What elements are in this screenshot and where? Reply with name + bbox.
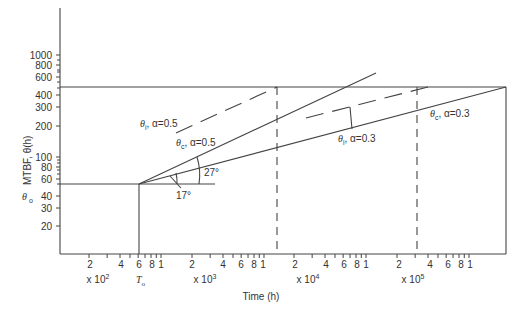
- x-tick-label: 6: [445, 259, 451, 270]
- x-tick-label: 6: [238, 259, 244, 270]
- angle-arc-27: [197, 157, 200, 184]
- x-tick-label: 4: [220, 259, 226, 270]
- x-tick-label: 1: [467, 259, 473, 270]
- annotation-label: θc, α=0.3: [430, 108, 470, 121]
- series-lines: [139, 73, 506, 188]
- annotation-label: θc, α=0.5: [176, 137, 216, 150]
- x-tick-label: 2: [189, 259, 195, 270]
- gap-marker-alpha03: [350, 107, 352, 129]
- angle-17-leader: [170, 176, 181, 188]
- x-multiplier-label: x 105: [402, 273, 425, 285]
- y-axis-title: MTBF, θ(h): [22, 136, 33, 185]
- theta-c-alpha03-line: [139, 87, 506, 184]
- x-multiplier-label: x 103: [194, 273, 217, 285]
- x-tick-label: 2: [292, 259, 298, 270]
- x-tick-label: 2: [87, 259, 93, 270]
- y-tick-label: 600: [35, 72, 52, 83]
- x-ticks: 24681246812468124681x 102x 103x 104x 105…: [87, 254, 474, 288]
- y-tick-label: 300: [35, 102, 52, 113]
- x-multiplier-label: x 102: [87, 273, 110, 285]
- x-tick-label: 8: [354, 259, 360, 270]
- x-tick-label: 1: [158, 259, 164, 270]
- y-tick-label: 20: [41, 221, 53, 232]
- x-tick-label: 1: [363, 259, 369, 270]
- annotation-label: θi, α=0.3: [338, 133, 376, 146]
- x-tick-label: 8: [458, 259, 464, 270]
- mtbf-growth-chart: 10008006004003002001008060403020θo 24681…: [0, 0, 525, 314]
- y-tick-label: 30: [41, 203, 53, 214]
- y-tick-label: 400: [35, 90, 52, 101]
- x-tick-label: 6: [136, 259, 142, 270]
- annotation-label: θi, α=0.5: [140, 118, 178, 131]
- labels: θi, α=0.5θc, α=0.5θi, α=0.3θc, α=0.327°1…: [140, 108, 470, 201]
- x-tick-label: 4: [427, 259, 433, 270]
- theta0-label: θ: [22, 191, 27, 202]
- x-tick-label: 8: [251, 259, 257, 270]
- theta-i-alpha03-line: [306, 87, 428, 118]
- y-tick-label: 80: [41, 162, 53, 173]
- x-tick-label: 2: [396, 259, 402, 270]
- x-tick-label: 1: [260, 259, 266, 270]
- T0-label: To: [136, 274, 146, 288]
- y-tick-label: 40: [41, 191, 53, 202]
- y-tick-label: 60: [41, 174, 53, 185]
- x-tick-label: 8: [149, 259, 155, 270]
- x-tick-label: 6: [341, 259, 347, 270]
- x-axis-title: Time (h): [243, 291, 280, 302]
- x-tick-label: 4: [323, 259, 329, 270]
- axes: [60, 8, 506, 254]
- x-multiplier-label: x 104: [297, 273, 320, 285]
- y-tick-label: 200: [35, 121, 52, 132]
- x-tick-label: 4: [118, 259, 124, 270]
- annotation-label: 27°: [204, 167, 219, 178]
- theta0-sub: o: [29, 197, 33, 204]
- annotation-label: 17°: [176, 190, 191, 201]
- y-tick-label: 800: [35, 60, 52, 71]
